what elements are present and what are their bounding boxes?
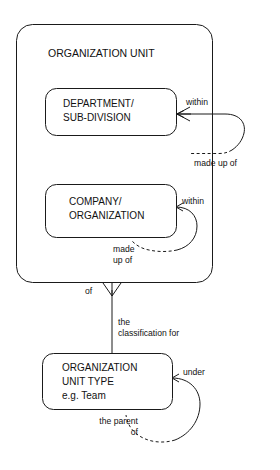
rel-label-of-parent: of [131,427,139,437]
rel-line-unit-type-recursive-solid [172,378,200,440]
crowsfoot-prong-of-right [112,283,121,296]
rel-label-classification-for: classification for [118,328,179,338]
entity-label-unit-type-line3: e.g. Team [62,390,106,401]
diagram-canvas: ORGANIZATION UNIT DEPARTMENT/ SUB-DIVISI… [0,0,280,470]
rel-label-company-made: made [113,244,135,254]
entity-label-department-line1: DEPARTMENT/ [63,98,134,109]
rel-label-department-within: within [185,97,208,107]
rel-label-company-up-of: up of [113,255,133,265]
crowsfoot-prong-of-left [103,283,112,296]
entity-label-unit-type-line1: ORGANIZATION [62,362,137,373]
rel-label-department-made-up-of: made up of [194,158,238,168]
entity-label-company-line1: COMPANY/ [69,196,122,207]
rel-label-of: of [85,286,93,296]
rel-label-company-within: within [181,196,204,206]
rel-label-under: under [183,367,205,377]
entity-label-unit-type-line2: UNIT TYPE [62,376,114,387]
rel-label-the-parent: the parent [99,416,138,426]
er-diagram: ORGANIZATION UNIT DEPARTMENT/ SUB-DIVISI… [0,0,280,470]
entity-label-department-line2: SUB-DIVISION [63,112,131,123]
entity-label-organization-unit: ORGANIZATION UNIT [48,47,155,59]
rel-label-the: the [118,317,130,327]
entity-label-company-line2: ORGANIZATION [69,210,144,221]
